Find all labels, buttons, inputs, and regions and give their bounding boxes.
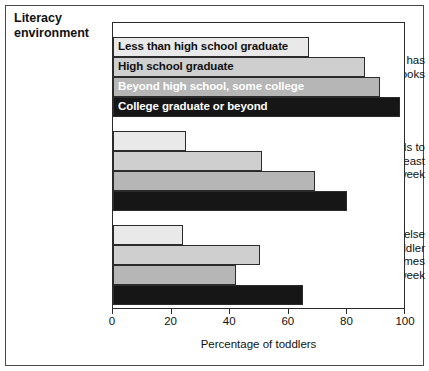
x-axis-tick-label: 100	[395, 315, 414, 327]
x-axis-tick-label: 80	[340, 315, 353, 327]
bar: High school graduate	[113, 57, 365, 77]
x-axis-tick	[346, 309, 347, 314]
bar-label: College graduate or beyond	[114, 101, 267, 113]
x-axis-tick	[171, 309, 172, 314]
x-axis-tick	[229, 309, 230, 314]
x-axis: 020406080100	[112, 309, 405, 310]
chart-title-line-1: Literacy	[14, 11, 112, 26]
x-axis-title: Percentage of toddlers	[112, 338, 405, 350]
bar: College graduate or beyond	[113, 97, 400, 117]
bar	[113, 171, 315, 191]
bar	[113, 151, 262, 171]
bar	[113, 131, 186, 151]
bar	[113, 265, 236, 285]
bar	[113, 225, 183, 245]
bar-label: Beyond high school, some college	[114, 81, 304, 93]
chart-title: Literacy environment	[14, 11, 112, 40]
bar	[113, 191, 347, 211]
plot-area: Less than high school graduate High scho…	[112, 22, 405, 309]
x-axis-tick	[112, 309, 113, 314]
chart-figure: Literacy environment Toddler has 3 or mo…	[0, 0, 429, 371]
chart-title-line-2: environment	[14, 26, 112, 41]
x-axis-tick-label: 60	[281, 315, 294, 327]
bar-label: High school graduate	[114, 61, 234, 73]
x-axis-tick	[404, 309, 405, 314]
x-axis-tick-label: 0	[109, 315, 115, 327]
x-axis-tick-label: 40	[223, 315, 236, 327]
x-axis-tick-label: 20	[164, 315, 177, 327]
bar	[113, 245, 260, 265]
x-axis-tick	[288, 309, 289, 314]
bar: Less than high school graduate	[113, 37, 309, 57]
bar	[113, 285, 303, 305]
bar-label: Less than high school graduate	[114, 41, 288, 53]
bar: Beyond high school, some college	[113, 77, 380, 97]
